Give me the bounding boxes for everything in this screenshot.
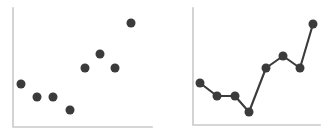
data-point xyxy=(213,92,222,101)
line-markers-group xyxy=(196,20,318,117)
scatter-points-group xyxy=(17,19,136,115)
scatter-plot-panel xyxy=(0,0,166,133)
data-point xyxy=(111,64,120,73)
data-point xyxy=(296,64,305,73)
line-plot-panel xyxy=(166,0,333,133)
data-point xyxy=(196,79,205,88)
data-point xyxy=(309,20,318,29)
data-point xyxy=(231,92,240,101)
data-point xyxy=(33,93,42,102)
data-point xyxy=(81,64,90,73)
data-point xyxy=(17,80,26,89)
data-point xyxy=(245,108,254,117)
scatter-plot-svg xyxy=(0,0,166,133)
data-point xyxy=(96,50,105,59)
data-point xyxy=(262,64,271,73)
dual-plot-figure xyxy=(0,0,333,133)
line-plot-svg xyxy=(166,0,333,133)
data-point xyxy=(127,19,136,28)
data-point xyxy=(66,106,75,115)
data-point xyxy=(49,93,58,102)
data-point xyxy=(279,52,288,61)
